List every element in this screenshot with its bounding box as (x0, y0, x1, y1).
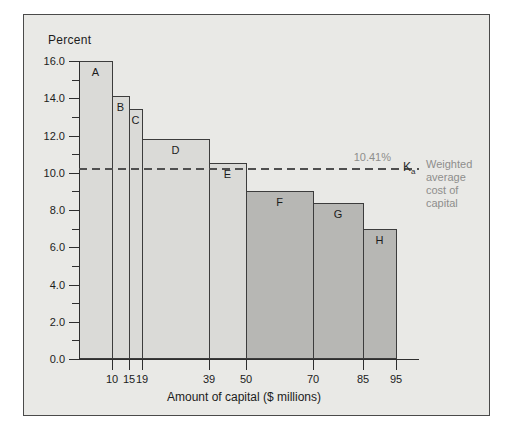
x-tick-15 (129, 360, 130, 370)
y-tick-14 (69, 98, 79, 99)
wacc-symbol-sub: a (411, 167, 415, 176)
y-tick-8 (69, 210, 79, 211)
x-axis-line (79, 359, 419, 360)
bar-label-A: A (79, 66, 112, 78)
x-tick-label-95: 95 (382, 373, 410, 385)
y-minor-tick-5 (72, 266, 79, 267)
wacc-caption: Weighted average cost of capital (426, 158, 488, 210)
wacc-symbol-main: K (403, 160, 411, 174)
y-tick-10 (69, 173, 79, 174)
y-axis-title: Percent (48, 33, 91, 47)
y-tick-12 (69, 136, 79, 137)
y-tick-label-16: 16.0 (32, 55, 65, 67)
x-tick-85 (363, 360, 364, 370)
y-tick-label-2: 2.0 (32, 316, 65, 328)
y-minor-tick-3 (72, 303, 79, 304)
bar-label-H: H (363, 234, 396, 246)
wacc-caption-line-1: Weighted (426, 158, 488, 171)
wacc-caption-line-4: capital (426, 197, 488, 210)
x-tick-95 (396, 360, 397, 370)
bar-C (129, 109, 143, 359)
y-tick-0 (69, 359, 79, 360)
y-tick-label-0: 0.0 (32, 353, 65, 365)
bar-E (209, 163, 247, 359)
x-tick-10 (112, 360, 113, 370)
x-tick-label-85: 85 (349, 373, 377, 385)
bar-label-F: F (246, 196, 313, 208)
y-tick-6 (69, 247, 79, 248)
y-tick-label-14: 14.0 (32, 92, 65, 104)
y-tick-label-8: 8.0 (32, 204, 65, 216)
y-minor-tick-7 (72, 229, 79, 230)
bar-G (313, 203, 364, 359)
x-tick-70 (313, 360, 314, 370)
wacc-symbol-ka: Ka (403, 160, 415, 176)
wacc-value-label: 10.41% (311, 151, 391, 163)
x-tick-label-50: 50 (232, 373, 260, 385)
y-tick-4 (69, 285, 79, 286)
y-minor-tick-1 (72, 340, 79, 341)
y-tick-2 (69, 322, 79, 323)
wacc-caption-line-2: average (426, 171, 488, 184)
y-minor-tick-9 (72, 191, 79, 192)
x-tick-label-39: 39 (195, 373, 223, 385)
bar-label-D: D (142, 144, 209, 156)
figure-frame: Percent ABCDEFGH0.02.04.06.08.010.012.01… (23, 14, 490, 416)
bar-label-B: B (112, 101, 129, 113)
x-tick-39 (209, 360, 210, 370)
page: Percent ABCDEFGH0.02.04.06.08.010.012.01… (0, 0, 509, 438)
wacc-dashed-line (79, 168, 419, 170)
x-tick-label-70: 70 (299, 373, 327, 385)
bar-D (142, 139, 210, 359)
y-minor-tick-13 (72, 117, 79, 118)
bar-B (112, 96, 130, 359)
bar-label-G: G (313, 208, 363, 220)
x-tick-50 (246, 360, 247, 370)
y-minor-tick-15 (72, 80, 79, 81)
bar-F (246, 191, 314, 359)
x-axis-title: Amount of capital ($ millions) (79, 390, 409, 404)
bar-H (363, 229, 397, 359)
y-tick-label-4: 4.0 (32, 279, 65, 291)
wacc-caption-line-3: cost of (426, 184, 488, 197)
y-tick-label-10: 10.0 (32, 167, 65, 179)
y-tick-label-6: 6.0 (32, 241, 65, 253)
x-tick-label-19: 19 (128, 373, 156, 385)
y-minor-tick-11 (72, 154, 79, 155)
y-tick-16 (69, 61, 79, 62)
y-tick-label-12: 12.0 (32, 130, 65, 142)
bar-A (79, 61, 113, 359)
x-tick-19 (142, 360, 143, 370)
y-axis-line (79, 61, 80, 360)
bar-label-C: C (129, 114, 142, 126)
